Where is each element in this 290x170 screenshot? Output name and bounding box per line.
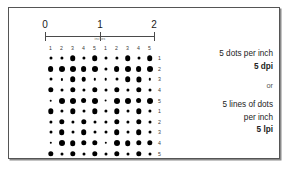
grid-column-header: 3 — [71, 44, 74, 53]
grid-dot — [92, 66, 98, 72]
grid-dot — [104, 142, 106, 144]
grid-dot — [48, 151, 53, 156]
legend-spacer-1 — [177, 73, 273, 80]
grid-dot — [70, 98, 76, 104]
grid-column-header: 4 — [137, 44, 140, 53]
grid-dot — [126, 110, 129, 113]
grid-column-header: 4 — [82, 44, 85, 53]
legend-spacer-2 — [177, 91, 273, 99]
grid-dot — [70, 77, 76, 83]
legend-line-dpi: 5 dpi — [177, 61, 273, 74]
ruler-caption-inches: inches — [94, 37, 105, 41]
grid-dot — [93, 78, 95, 80]
grid-dot — [104, 99, 107, 102]
grid-dot — [148, 131, 151, 134]
grid-dot — [49, 57, 52, 60]
grid-column-headers: 1234512345 — [45, 44, 155, 53]
grid-dot — [137, 57, 140, 60]
grid-dot — [92, 140, 97, 145]
grid-dot — [71, 120, 74, 123]
grid-dot — [71, 131, 74, 134]
grid-dot — [81, 77, 86, 82]
grid-dot — [136, 109, 141, 114]
grid-dot — [104, 89, 107, 92]
grid-row-label: 4 — [158, 140, 161, 146]
grid-dot — [115, 57, 118, 60]
legend-line-per-inch: per inch — [177, 112, 273, 125]
grid-dot — [70, 151, 75, 156]
grid-column-header: 3 — [126, 44, 129, 53]
grid-row: 1 — [45, 53, 155, 64]
grid-column-header: 1 — [104, 44, 107, 53]
grid-dot — [136, 140, 141, 145]
grid-dot — [49, 99, 52, 102]
grid-rows: 1234512345 — [45, 53, 155, 159]
ruler-tick-0 — [45, 32, 46, 41]
grid-dot — [60, 89, 63, 92]
grid-row-label: 3 — [158, 76, 161, 82]
grid-dot — [49, 78, 52, 81]
grid-row-label: 4 — [158, 87, 161, 93]
grid-dot — [81, 119, 86, 124]
figure-frame: 0 1 2 inches 1234512345 1234512345 5 dot… — [8, 7, 280, 159]
grid-dot — [59, 66, 65, 72]
grid-dot — [82, 57, 85, 60]
grid-dot — [148, 110, 151, 113]
grid-row: 5 — [45, 148, 155, 159]
grid-row: 2 — [45, 64, 155, 75]
grid-dot — [48, 109, 53, 114]
grid-dot — [81, 98, 87, 104]
ruler-tick-2 — [154, 32, 155, 41]
legend-line-lines-of-dots: 5 lines of dots — [177, 99, 273, 112]
grid-dot — [125, 66, 131, 72]
grid-dot — [104, 67, 107, 70]
grid-row-label: 5 — [158, 151, 161, 157]
grid-row: 2 — [45, 117, 155, 128]
grid-dot — [81, 66, 87, 72]
grid-column-header: 1 — [49, 44, 52, 53]
grid-dot — [104, 131, 107, 134]
figure-root: 0 1 2 inches 1234512345 1234512345 5 dot… — [0, 0, 290, 170]
grid-dot — [147, 66, 153, 72]
grid-dot — [48, 66, 54, 72]
grid-row: 3 — [45, 74, 155, 85]
grid-dot — [93, 131, 96, 134]
grid-column-header: 2 — [115, 44, 118, 53]
dot-grid: 1234512345 1234512345 — [45, 44, 155, 159]
grid-dot — [104, 78, 107, 81]
grid-dot — [125, 56, 131, 62]
inch-ruler: 0 1 2 inches — [45, 19, 155, 43]
grid-dot — [115, 78, 118, 81]
grid-dot — [136, 119, 141, 124]
grid-dot — [114, 87, 119, 92]
grid-dot — [82, 88, 85, 91]
grid-dot — [136, 98, 142, 104]
grid-dot — [81, 130, 87, 136]
ruler-number-1: 1 — [97, 19, 103, 30]
grid-dot — [114, 151, 119, 156]
grid-dot — [126, 152, 129, 155]
grid-dot — [136, 66, 142, 72]
grid-dot — [126, 88, 129, 91]
grid-dot — [147, 140, 152, 145]
legend-line-lpi: 5 lpi — [177, 124, 273, 137]
grid-dot — [147, 98, 153, 104]
grid-column-header: 2 — [60, 44, 63, 53]
grid-row-label: 1 — [158, 108, 161, 114]
grid-row: 4 — [45, 85, 155, 96]
grid-row: 4 — [45, 138, 155, 149]
grid-dot — [104, 57, 107, 60]
grid-dot — [92, 151, 97, 156]
grid-dot — [48, 87, 53, 92]
grid-dot — [126, 120, 129, 123]
grid-dot — [114, 140, 120, 146]
legend-text-block: 5 dots per inch 5 dpi or 5 lines of dots… — [177, 48, 273, 137]
grid-dot — [125, 140, 131, 146]
grid-dot — [104, 120, 107, 123]
grid-dot — [60, 78, 62, 80]
grid-row-label: 2 — [158, 119, 161, 125]
grid-dot — [59, 140, 65, 146]
grid-dot — [59, 98, 65, 104]
grid-dot — [92, 98, 98, 104]
grid-dot — [114, 98, 120, 104]
